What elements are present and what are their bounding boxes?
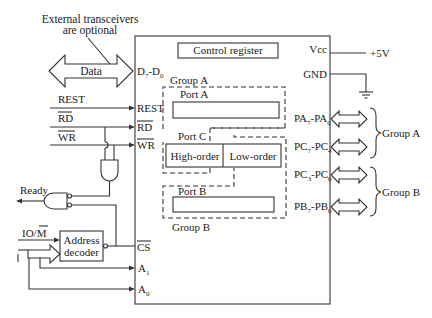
port-b-io-arrow [331,199,367,215]
address-decoder-label-1: Address [63,234,99,246]
a0-arrowhead [129,287,135,292]
group-a-label: Group A [170,74,208,86]
and-output-to-nand [72,181,110,196]
control-register-label: Control register [193,44,263,56]
a1-arrowhead [129,266,135,271]
gnd-line [330,74,366,92]
rd-arrowhead [129,125,135,130]
pin-rd-label: RD [137,121,152,133]
port-c-high-order: High-order [171,150,220,162]
pin-wr-label: WR [137,139,155,151]
port-a-io-arrow [331,111,367,127]
transceiver-note-line2: are optional [63,24,118,37]
port-c-label: Port C [178,130,206,142]
group-b-right-label: Group B [382,186,420,198]
port-a-box [173,102,279,118]
input-rest-label: REST [58,93,85,105]
io-m-label: IO/M [22,227,47,239]
nand-input-bubble-2 [68,203,72,207]
port-c-upper-io-arrow [331,139,367,155]
group-b-brace [370,167,381,216]
pin-vcc-label: Vcc [309,43,327,55]
group-a-brace [370,108,381,158]
and-gate [101,160,118,181]
ready-arrowhead [16,199,22,204]
port-b-label: Port B [178,185,206,197]
address-bus-arrow [28,245,60,263]
transceiver-pointer-line [88,38,110,64]
port-c-lower-io-arrow [331,167,367,183]
port-c-low-order: Low-order [229,150,276,162]
ready-label: Ready [20,184,49,196]
8255-block-diagram: External transceivers are optional Data … [0,0,432,318]
data-bus-label: Data [80,65,102,77]
rest-arrowhead [129,106,135,111]
pin-rest-label: REST [137,102,164,114]
port-a-label: Port A [180,88,208,100]
wr-arrowhead [129,143,135,148]
pin-cs-label: CS [137,241,150,253]
a0-line [29,258,131,289]
io-m-arrowhead [54,238,60,243]
group-b-label: Group B [172,221,210,233]
nand-input-bubble-1 [68,194,72,198]
decoder-output-bubble [104,244,108,248]
group-a-right-label: Group A [382,127,420,139]
input-rd-label: RD [58,112,73,124]
pin-gnd-label: GND [303,68,327,80]
vcc-value: +5V [370,47,390,59]
input-wr-label: WR [58,131,76,143]
address-decoder-label-2: decoder [64,246,99,258]
port-b-box [173,197,274,212]
